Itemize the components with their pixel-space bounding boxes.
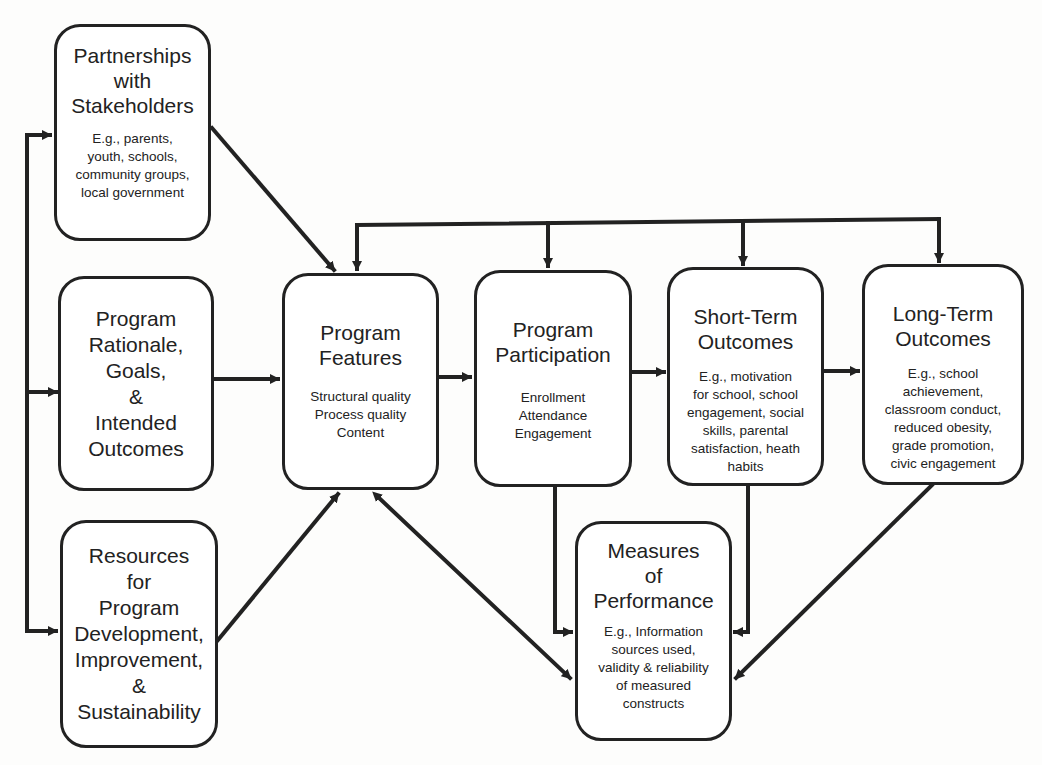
arrow-longterm-to-measures [736, 485, 932, 678]
top-bus-line [357, 219, 939, 225]
box-resources: Resources for Program Development, Impro… [60, 520, 218, 748]
arrow-shortterm-to-measures [735, 486, 748, 632]
box-long-term-outcomes: Long-Term Outcomes E.g., school achievem… [862, 264, 1024, 485]
arrow-participation-to-measures [555, 487, 571, 632]
rationale-title: Program Rationale, Goals, & Intended Out… [88, 306, 184, 462]
box-program-participation: Program Participation Enrollment Attenda… [474, 270, 632, 487]
arrow-features-measures-bidirectional [378, 497, 570, 678]
features-title: Program Features [319, 320, 402, 370]
shortterm-title: Short-Term Outcomes [694, 304, 798, 354]
box-short-term-outcomes: Short-Term Outcomes E.g., motivation for… [667, 267, 824, 486]
resources-title: Resources for Program Development, Impro… [74, 543, 204, 725]
shortterm-detail: E.g., motivation for school, school enga… [687, 368, 804, 476]
logic-model-diagram: Partnerships with Stakeholders E.g., par… [0, 0, 1042, 765]
features-detail: Structural quality Process quality Conte… [310, 388, 411, 442]
box-rationale: Program Rationale, Goals, & Intended Out… [58, 276, 214, 491]
longterm-detail: E.g., school achievement, classroom cond… [885, 365, 1001, 473]
box-partnerships: Partnerships with Stakeholders E.g., par… [54, 24, 211, 241]
box-measures-of-performance: Measures of Performance E.g., Informatio… [575, 521, 732, 741]
participation-detail: Enrollment Attendance Engagement [515, 389, 592, 443]
box-program-features: Program Features Structural quality Proc… [282, 273, 439, 490]
partnerships-detail: E.g., parents, youth, schools, community… [75, 130, 189, 202]
arrow-partnerships-to-features [212, 128, 334, 270]
arrow-resources-to-features [218, 494, 338, 640]
longterm-title: Long-Term Outcomes [893, 301, 993, 351]
participation-title: Program Participation [495, 317, 611, 367]
measures-title: Measures of Performance [593, 538, 713, 613]
partnerships-title: Partnerships with Stakeholders [71, 43, 194, 118]
measures-detail: E.g., Information sources used, validity… [598, 623, 708, 713]
